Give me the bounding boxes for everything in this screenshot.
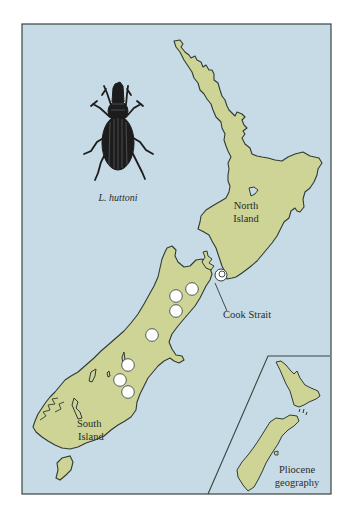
inset-label-line1: Pliocene <box>279 464 315 475</box>
occurrence-point <box>114 374 127 387</box>
pliocene-islet-1 <box>274 451 278 455</box>
inset-label-line2: geography <box>275 477 320 488</box>
occurrence-point <box>146 329 159 342</box>
cook-strait-label: Cook Strait <box>223 309 271 320</box>
occurrence-point <box>186 283 199 296</box>
south-island-label-line1: South <box>77 418 102 429</box>
north-island-label-line1: North <box>234 200 259 211</box>
species-label: L. huttoni <box>98 192 138 203</box>
occurrence-point <box>170 305 183 318</box>
occurrence-point <box>170 290 183 303</box>
north-island-label-line2: Island <box>233 213 259 224</box>
occurrence-point <box>122 359 135 372</box>
new-zealand-map: L. huttoni North Island Cook Strait Sout… <box>0 0 348 518</box>
occurrence-point <box>122 386 135 399</box>
south-island-label-line2: Island <box>78 431 104 442</box>
